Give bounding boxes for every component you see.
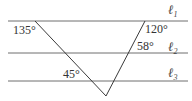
line-l3-label: ℓ3 <box>168 65 177 82</box>
angle-58-label: 58° <box>137 39 154 53</box>
line-l1-label: ℓ1 <box>168 2 177 19</box>
angle-120-label: 120° <box>145 22 168 36</box>
angle-135-label: 135° <box>13 23 36 37</box>
angle-45-label: 45° <box>63 67 80 81</box>
left-transversal <box>35 21 106 96</box>
right-transversal <box>106 21 145 96</box>
line-l2-label: ℓ2 <box>168 39 177 56</box>
parallel-lines-diagram: ℓ1 ℓ2 ℓ3 135° 120° 58° 45° <box>0 0 192 101</box>
